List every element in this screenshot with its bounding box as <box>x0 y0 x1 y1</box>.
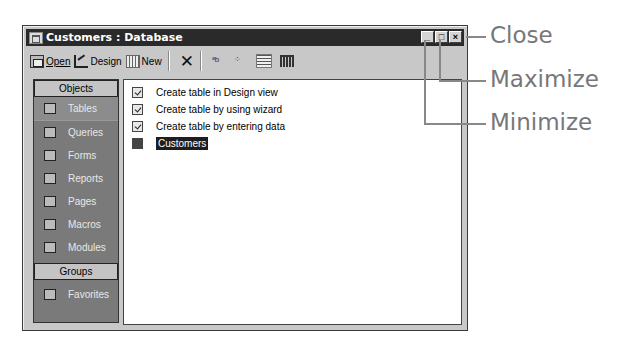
design-label: Design <box>90 56 121 67</box>
object-list: Create table in Design view Create table… <box>123 79 462 325</box>
sidebar-item-label: Tables <box>68 103 97 114</box>
database-window: Customers : Database _ □ × Open Design N… <box>22 25 468 331</box>
large-icons-button[interactable]: ᵃb <box>212 55 226 67</box>
sidebar-item-label: Forms <box>68 150 96 161</box>
maximize-callout-line <box>439 40 441 81</box>
new-label: New <box>142 56 162 67</box>
close-callout-line <box>466 36 486 38</box>
maximize-callout-line <box>439 80 486 82</box>
delete-button[interactable]: ✕ <box>180 51 194 71</box>
new-button[interactable]: New <box>126 55 162 68</box>
macro-icon <box>44 219 56 230</box>
table-icon <box>44 103 56 114</box>
module-icon <box>44 242 56 253</box>
new-table-icon <box>126 55 140 68</box>
sidebar-item-forms[interactable]: Forms <box>34 144 118 167</box>
database-icon <box>29 32 43 44</box>
table-icon <box>132 138 143 149</box>
small-icons-button[interactable]: ⁘ <box>234 55 248 67</box>
minimize-button[interactable]: _ <box>421 31 434 43</box>
toolbar-separator <box>200 51 202 71</box>
open-button[interactable]: Open <box>30 55 70 68</box>
report-icon <box>44 173 56 184</box>
sidebar-item-label: Pages <box>68 196 96 207</box>
maximize-button[interactable]: □ <box>435 31 448 43</box>
toolbar-separator <box>168 51 170 71</box>
design-icon <box>74 55 88 68</box>
sidebar-item-pages[interactable]: Pages <box>34 190 118 213</box>
sidebar-item-modules[interactable]: Modules <box>34 236 118 259</box>
shortcut-icon <box>132 104 143 115</box>
minimize-callout: Minimize <box>490 109 592 135</box>
sidebar-item-label: Favorites <box>68 289 109 300</box>
minimize-callout-line <box>424 123 486 125</box>
shortcut-icon <box>132 121 143 132</box>
maximize-callout: Maximize <box>490 66 599 92</box>
sidebar-item-favorites[interactable]: Favorites <box>34 280 118 308</box>
design-button[interactable]: Design <box>74 55 121 68</box>
page-icon <box>44 196 56 207</box>
objects-bar: Objects Tables Queries Forms Reports Pag… <box>33 79 119 323</box>
sidebar-item-label: Modules <box>68 242 106 253</box>
close-callout: Close <box>490 22 553 48</box>
title-bar[interactable]: Customers : Database _ □ × <box>26 29 464 46</box>
shortcut-icon <box>132 87 143 98</box>
list-item[interactable]: Create table by using wizard <box>124 101 461 117</box>
window-title: Customers : Database <box>46 31 183 44</box>
objects-header[interactable]: Objects <box>34 80 118 97</box>
list-item-customers-table[interactable]: Customers <box>124 135 461 151</box>
open-label: Open <box>46 56 70 67</box>
list-item[interactable]: Create table in Design view <box>124 84 461 100</box>
sidebar-item-reports[interactable]: Reports <box>34 167 118 190</box>
groups-header[interactable]: Groups <box>34 263 118 280</box>
sidebar-item-queries[interactable]: Queries <box>34 121 118 144</box>
sidebar-item-tables[interactable]: Tables <box>34 97 118 121</box>
open-icon <box>30 55 44 68</box>
query-icon <box>44 127 56 138</box>
toolbar: Open Design New ✕ ᵃb ⁘ <box>26 48 464 74</box>
list-item[interactable]: Create table by entering data <box>124 118 461 134</box>
minimize-callout-line <box>424 40 426 124</box>
close-button[interactable]: × <box>449 31 462 43</box>
sidebar-item-label: Macros <box>68 219 101 230</box>
list-view-button[interactable] <box>256 54 272 68</box>
favorites-folder-icon <box>44 289 56 300</box>
sidebar-item-macros[interactable]: Macros <box>34 213 118 236</box>
form-icon <box>44 150 56 161</box>
details-view-button[interactable] <box>280 55 294 67</box>
sidebar-item-label: Reports <box>68 173 103 184</box>
sidebar-item-label: Queries <box>68 127 103 138</box>
